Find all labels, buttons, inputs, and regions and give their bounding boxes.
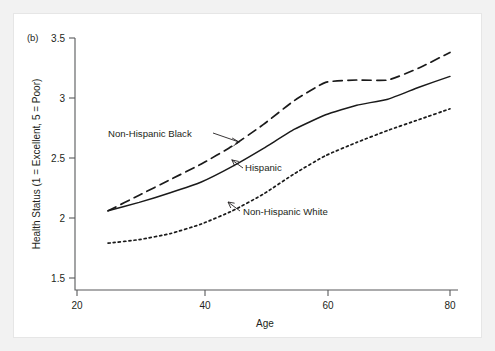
figure-panel: (b) 3.5 3 2.5 2 1.5 Health Status (1 = E… — [0, 0, 495, 351]
annotation-label: Non-Hispanic White — [243, 206, 328, 217]
x-axis-tick-labels: 20 40 60 80 — [71, 300, 456, 311]
x-tick-label: 40 — [199, 300, 211, 311]
annotation-label: Hispanic — [245, 162, 282, 173]
x-tick-label: 60 — [322, 300, 334, 311]
y-tick-label: 3 — [59, 93, 65, 104]
y-tick-label: 2 — [59, 213, 65, 224]
y-axis-ticks — [69, 38, 75, 278]
x-axis-title: Age — [256, 318, 274, 329]
y-tick-label: 3.5 — [51, 33, 65, 44]
line-chart: 3.5 3 2.5 2 1.5 Health Status (1 = Excel… — [0, 0, 495, 351]
annotation-non-hispanic-white: Non-Hispanic White — [228, 202, 328, 217]
y-tick-label: 2.5 — [51, 153, 65, 164]
annotation-label: Non-Hispanic Black — [108, 128, 192, 139]
y-axis-tick-labels: 3.5 3 2.5 2 1.5 — [51, 33, 65, 284]
y-axis-title: Health Status (1 = Excellent, 5 = Poor) — [31, 79, 42, 250]
x-axis-ticks — [77, 290, 450, 296]
annotation-non-hispanic-black: Non-Hispanic Black — [108, 128, 239, 146]
y-tick-label: 1.5 — [51, 273, 65, 284]
x-tick-label: 20 — [71, 300, 83, 311]
series-line-hispanic — [108, 76, 450, 210]
x-tick-label: 80 — [444, 300, 456, 311]
